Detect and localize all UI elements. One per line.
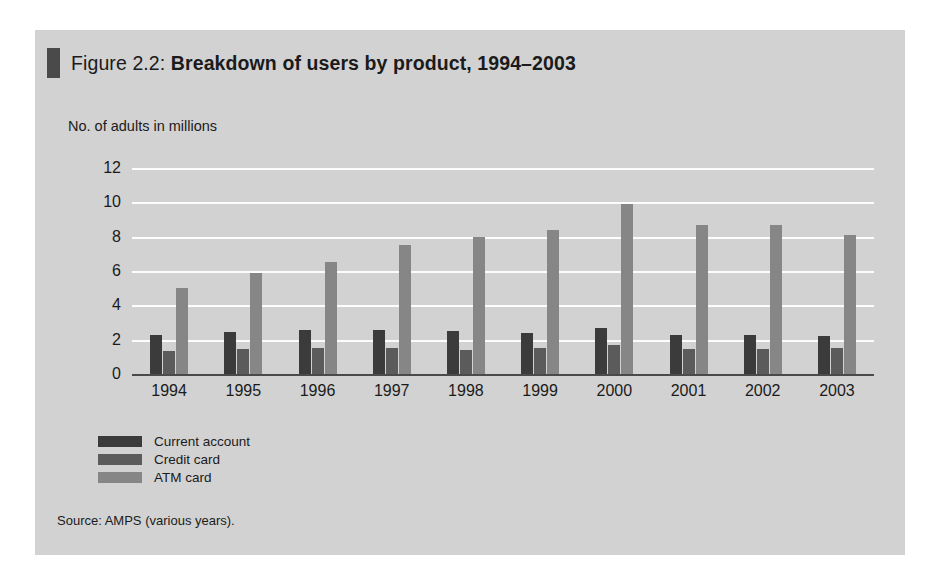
y-axis-tick-label: 2: [112, 330, 121, 348]
bar: [176, 288, 188, 374]
bar: [547, 230, 559, 374]
y-axis-tick-label: 8: [112, 227, 121, 245]
legend-item: Credit card: [98, 452, 250, 467]
bar: [473, 237, 485, 374]
figure-title: Figure 2.2: Breakdown of users by produc…: [47, 48, 576, 78]
title-marker-icon: [47, 48, 60, 78]
bar: [670, 335, 682, 374]
source-note: Source: AMPS (various years).: [57, 513, 235, 528]
bar-group: [206, 168, 280, 374]
x-axis-line: [132, 374, 874, 376]
x-axis-tick-label: 2000: [577, 382, 651, 400]
legend-swatch: [98, 436, 142, 447]
bar: [224, 332, 236, 374]
bar: [595, 328, 607, 374]
bar: [521, 333, 533, 374]
plot-area: 024681012: [132, 168, 874, 376]
bar: [621, 204, 633, 374]
bar: [744, 335, 756, 374]
page-title: Figure 2.2: Breakdown of users by produc…: [71, 52, 576, 75]
x-axis-tick-label: 2001: [651, 382, 725, 400]
x-axis-tick-label: 1996: [280, 382, 354, 400]
legend-item: Current account: [98, 434, 250, 449]
bar-group: [651, 168, 725, 374]
legend-label: Current account: [154, 434, 250, 449]
bar-group: [429, 168, 503, 374]
figure-container: Figure 2.2: Breakdown of users by produc…: [0, 0, 945, 586]
bar: [534, 348, 546, 374]
bar-group: [726, 168, 800, 374]
x-axis-tick-label: 2002: [726, 382, 800, 400]
legend-swatch: [98, 454, 142, 465]
x-axis-tick-label: 2003: [800, 382, 874, 400]
y-axis-title: No. of adults in millions: [68, 118, 217, 134]
bar: [831, 348, 843, 374]
bar: [163, 351, 175, 374]
bar: [312, 348, 324, 374]
bar: [447, 331, 459, 374]
x-axis-labels: 1994199519961997199819992000200120022003: [132, 382, 874, 400]
bar: [696, 225, 708, 374]
bar: [844, 235, 856, 374]
x-axis-tick-label: 1997: [355, 382, 429, 400]
y-axis-tick-label: 0: [112, 365, 121, 383]
bar: [373, 330, 385, 374]
legend-item: ATM card: [98, 470, 250, 485]
bar: [757, 349, 769, 374]
bar-group: [800, 168, 874, 374]
chart-legend: Current accountCredit cardATM card: [98, 434, 250, 485]
x-axis-tick-label: 1999: [503, 382, 577, 400]
figure-label: Figure 2.2:: [71, 52, 165, 74]
x-axis-tick-label: 1998: [429, 382, 503, 400]
legend-swatch: [98, 472, 142, 483]
legend-label: ATM card: [154, 470, 212, 485]
y-axis-tick-label: 10: [103, 193, 121, 211]
bar-groups: [132, 168, 874, 374]
figure-panel: Figure 2.2: Breakdown of users by produc…: [35, 30, 905, 555]
bar: [237, 349, 249, 374]
legend-label: Credit card: [154, 452, 220, 467]
x-axis-tick-label: 1994: [132, 382, 206, 400]
bar: [399, 245, 411, 374]
bar: [608, 345, 620, 374]
y-axis-tick-label: 6: [112, 262, 121, 280]
bar-group: [355, 168, 429, 374]
bar: [299, 330, 311, 374]
bar: [250, 273, 262, 374]
bar: [460, 350, 472, 374]
figure-title-text: Breakdown of users by product, 1994–2003: [171, 52, 576, 74]
bar: [683, 349, 695, 374]
bar-group: [503, 168, 577, 374]
y-axis-tick-label: 4: [112, 296, 121, 314]
y-axis-tick-label: 12: [103, 159, 121, 177]
bar: [770, 225, 782, 374]
bar: [818, 336, 830, 374]
bar: [150, 335, 162, 374]
bar: [325, 262, 337, 374]
bar-group: [280, 168, 354, 374]
bar: [386, 348, 398, 374]
x-axis-tick-label: 1995: [206, 382, 280, 400]
bar-group: [132, 168, 206, 374]
bar-group: [577, 168, 651, 374]
